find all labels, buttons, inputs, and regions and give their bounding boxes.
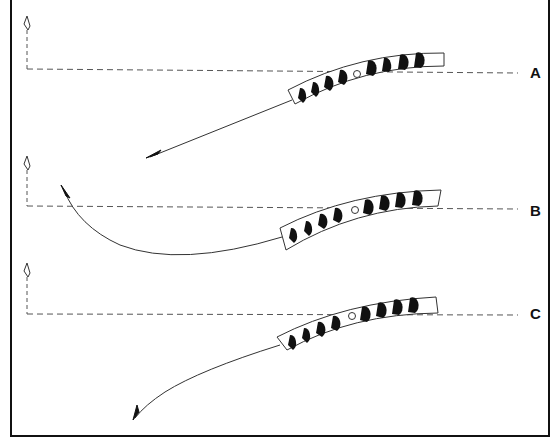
panel-c: C [24,263,541,420]
panel-label-b: B [530,202,541,219]
arrow-flight-diagram: A B [0,0,551,439]
arrow-shaft [150,100,292,157]
direction-marker-icon [24,263,30,314]
direction-marker-icon [24,16,30,69]
diagram-frame [10,0,550,437]
arrow-trajectory [64,190,282,255]
arrowhead-icon [133,405,139,420]
reference-baseline [27,69,518,73]
panel-a: A [24,16,541,158]
reference-baseline [27,206,518,209]
arrow-trajectory [135,345,280,418]
fletched-arrow-body [280,190,441,250]
panel-label-a: A [530,64,541,81]
panel-label-c: C [530,305,541,322]
direction-marker-icon [24,156,30,206]
fletched-arrow-body [288,52,444,104]
reference-baseline [27,314,518,315]
panel-b: B [24,156,541,255]
fletched-arrow-body [277,297,438,350]
arrowhead-icon [61,185,70,198]
